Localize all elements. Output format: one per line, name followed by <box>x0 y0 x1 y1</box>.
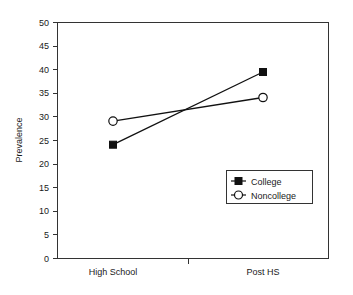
legend-marker-college <box>235 178 242 185</box>
y-tick-label-30: 30 <box>39 112 49 122</box>
y-tick-label-0: 0 <box>44 254 49 264</box>
legend-entry-college[interactable]: College <box>231 177 282 187</box>
y-tick-label-15: 15 <box>39 183 49 193</box>
marker-college-high-school <box>110 141 117 148</box>
marker-noncollege-high-school <box>109 117 117 125</box>
chart-background <box>0 0 353 295</box>
chart-page: 0 5 10 15 20 25 30 35 40 45 50 Prevalenc… <box>0 0 353 295</box>
line-chart: 0 5 10 15 20 25 30 35 40 45 50 Prevalenc… <box>0 0 353 295</box>
y-tick-label-35: 35 <box>39 88 49 98</box>
legend-entry-noncollege[interactable]: Noncollege <box>231 191 296 201</box>
legend-label-college: College <box>251 177 282 187</box>
x-category-label-high-school: High School <box>89 267 138 277</box>
y-tick-label-5: 5 <box>44 230 49 240</box>
y-tick-label-45: 45 <box>39 41 49 51</box>
x-category-label-post-hs: Post HS <box>246 267 279 277</box>
y-axis-title: Prevalence <box>14 117 24 162</box>
chart-legend[interactable]: College Noncollege <box>227 171 313 204</box>
y-tick-label-40: 40 <box>39 65 49 75</box>
marker-college-post-hs <box>260 69 267 76</box>
legend-marker-noncollege <box>235 191 243 199</box>
y-tick-label-25: 25 <box>39 136 49 146</box>
y-tick-label-20: 20 <box>39 159 49 169</box>
legend-label-noncollege: Noncollege <box>251 191 296 201</box>
y-tick-label-50: 50 <box>39 18 49 28</box>
marker-noncollege-post-hs <box>259 93 267 101</box>
y-tick-label-10: 10 <box>39 206 49 216</box>
